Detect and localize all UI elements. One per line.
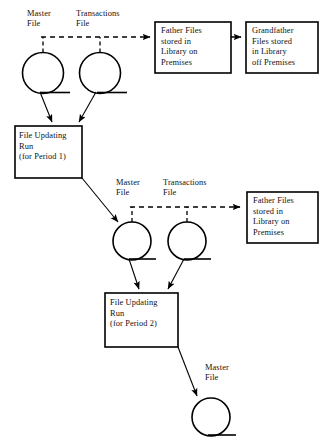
text-file-updating-run-1: File Updating Run (for Period 1) bbox=[19, 131, 81, 163]
text-father-files-1: Father Files stored in Library on Premis… bbox=[161, 26, 229, 68]
label-master-file-3: Master File bbox=[205, 363, 229, 383]
dashed-connector-top bbox=[41, 37, 150, 53]
label-transactions-file-1: Transactions File bbox=[76, 9, 120, 29]
tape-symbol-master-file-1 bbox=[23, 53, 71, 94]
text-grandfather-files: Grandfather Files stored in Library off … bbox=[252, 26, 318, 68]
tape-symbol-master-file-3 bbox=[192, 398, 236, 436]
label-transactions-file-2: Transactions File bbox=[163, 178, 207, 198]
text-father-files-2: Father Files stored in Library on Premis… bbox=[253, 196, 317, 238]
text-file-updating-run-2: File Updating Run (for Period 2) bbox=[110, 298, 176, 330]
arrow-transactions2-to-run2 bbox=[168, 259, 184, 289]
arrow-run2-to-master3 bbox=[178, 347, 197, 396]
arrow-master1-to-run1 bbox=[40, 92, 52, 122]
tape-symbol-master-file-2 bbox=[113, 222, 156, 260]
tape-symbol-transactions-file-1 bbox=[80, 53, 128, 94]
tape-symbol-transactions-file-2 bbox=[168, 222, 211, 260]
arrow-transactions1-to-run1 bbox=[79, 92, 96, 122]
flowchart-diagram: Master File Transactions File Father Fil… bbox=[0, 0, 324, 444]
dashed-connector-bottom bbox=[130, 207, 240, 222]
label-master-file-2: Master File bbox=[116, 178, 140, 198]
arrow-run1-to-master2 bbox=[82, 178, 118, 222]
arrow-master2-to-run2 bbox=[129, 259, 139, 289]
label-master-file-1: Master File bbox=[27, 9, 51, 29]
